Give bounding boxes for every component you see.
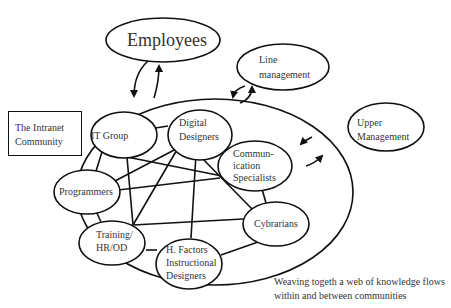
- employees-label: Employees: [127, 30, 207, 50]
- h-factors-label-2: Instructional: [166, 257, 217, 269]
- node-line-management[interactable]: [237, 44, 329, 90]
- communication-specialists-label-2: ication: [233, 160, 260, 172]
- arrow-linemgmt-to-community: [233, 86, 245, 97]
- intranet-community-label-2: Community: [15, 136, 63, 148]
- arrow-community-to-employees: [154, 66, 159, 98]
- h-factors-label-1: H. Factors: [166, 244, 208, 256]
- programmers-label: Programmers: [59, 186, 113, 198]
- training-label-2: HR/OD: [96, 242, 127, 254]
- caption-line-2: within and between communities: [274, 290, 406, 302]
- communication-specialists-label-1: Commun-: [233, 148, 274, 160]
- line-management-label-1: Line: [259, 54, 277, 66]
- digital-designers-label-1: Digital: [179, 117, 207, 129]
- arrow-uppermgmt-to-community: [301, 137, 312, 144]
- it-group-label: IT Group: [91, 130, 128, 142]
- training-label-1: Training/: [96, 229, 133, 241]
- arrow-employees-to-community: [134, 61, 148, 96]
- upper-management-label-1: Upper: [357, 117, 382, 129]
- cybrarians-label: Cybrarians: [254, 218, 298, 230]
- upper-management-label-2: Management: [357, 131, 409, 143]
- digital-designers-label-2: Designers: [179, 131, 219, 143]
- communication-specialists-label-3: Specialists: [233, 172, 276, 184]
- line-management-label-2: management: [259, 69, 310, 81]
- caption-line-1: Weaving togeth a web of knowledge flows: [274, 276, 445, 288]
- h-factors-label-3: Designers: [166, 270, 206, 282]
- arrow-community-to-uppermgmt: [306, 156, 322, 166]
- intranet-community-label-1: The Intranet: [15, 122, 64, 134]
